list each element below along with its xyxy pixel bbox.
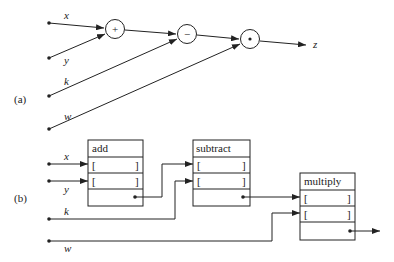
subtract-symbol: − (184, 28, 190, 40)
add-box: add [ ] [ ] (88, 140, 143, 206)
subtract-box-title: subtract (196, 142, 231, 154)
multiply-box-title: multiply (304, 175, 342, 187)
b-input-w-label: w (64, 242, 72, 254)
input-y-label: y (63, 54, 69, 66)
add-slot2-open: [ (92, 175, 96, 187)
edge-sub-mul (197, 35, 239, 39)
input-k-label: k (64, 75, 70, 87)
add-slot2-close: ] (135, 175, 139, 187)
mul-slot1-open: [ (304, 192, 308, 204)
add-slot1-close: ] (135, 159, 139, 171)
mul-slot1-close: ] (347, 192, 351, 204)
multiply-box: multiply [ ] [ ] (300, 173, 355, 240)
multiply-symbol (248, 37, 251, 40)
edge-add-sub (125, 30, 176, 34)
mul-slot2-open: [ (304, 208, 308, 220)
edge-mul-z (260, 41, 306, 45)
edge-w-mul (49, 44, 240, 129)
output-z-label: z (312, 38, 318, 50)
b-input-x-label: x (63, 150, 69, 162)
subtract-box: subtract [ ] [ ] (193, 140, 250, 206)
sub-slot1-close: ] (242, 159, 246, 171)
add-box-title: add (92, 142, 108, 154)
sub-slot2-close: ] (242, 175, 246, 187)
add-slot1-open: [ (92, 159, 96, 171)
b-input-k-label: k (64, 205, 70, 217)
mul-slot2-close: ] (347, 208, 351, 220)
sub-slot2-open: [ (197, 175, 201, 187)
part-b: (b) x y k w add [ ] [ ] subtrac (14, 140, 380, 254)
edge-x-add (49, 23, 104, 28)
dataflow-diagram: (a) x y k w + − z (b) x y (0, 0, 394, 262)
edge-k-sub (49, 39, 177, 96)
edge-y-add (49, 34, 105, 58)
part-a: (a) x y k w + − z (14, 9, 318, 131)
sub-slot1-open: [ (197, 159, 201, 171)
add-symbol: + (112, 23, 118, 35)
part-a-label: (a) (14, 93, 27, 106)
part-b-label: (b) (14, 192, 27, 205)
input-x-label: x (63, 9, 69, 21)
b-input-y-label: y (63, 183, 69, 195)
